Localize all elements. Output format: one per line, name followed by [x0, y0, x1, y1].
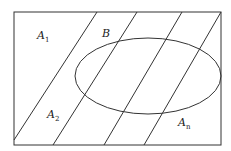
label-an: An — [177, 116, 191, 131]
label-b: B — [101, 27, 110, 40]
label-a2: A2 — [46, 108, 59, 123]
partition-line-2 — [53, 12, 137, 145]
label-a1: A1 — [36, 29, 49, 44]
partition-line-3 — [104, 12, 182, 145]
partition-diagram: A1 B A2 An — [0, 0, 231, 151]
